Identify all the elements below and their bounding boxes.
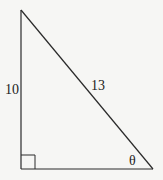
right-triangle-diagram: 10 13 θ xyxy=(0,0,163,180)
background xyxy=(0,0,163,180)
vertical-leg-label: 10 xyxy=(5,82,19,97)
theta-angle-label: θ xyxy=(129,153,136,168)
hypotenuse-label: 13 xyxy=(91,78,105,93)
